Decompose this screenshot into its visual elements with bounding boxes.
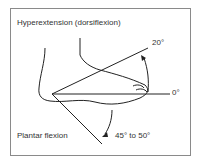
diagram-title: Hyperextension (dorsiflexion) — [17, 18, 121, 27]
plantar-angle-label: 45° to 50° — [115, 131, 150, 140]
dorsiflexion-line — [52, 48, 148, 94]
neutral-angle-label: 0° — [172, 88, 180, 97]
plantar-arc-arrow — [105, 110, 112, 134]
dorsiflexion-angle-label: 20° — [152, 38, 164, 47]
dorsiflexion-arrowhead — [141, 55, 146, 61]
plantar-arrowhead — [102, 132, 108, 137]
plantar-flexion-label: Plantar flexion — [17, 131, 68, 140]
toes — [133, 85, 147, 92]
